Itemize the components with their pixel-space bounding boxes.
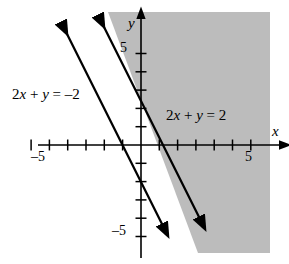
y-tick-label-5: 5 [120, 41, 127, 55]
plot-canvas [0, 0, 289, 264]
equation-right-y: y [196, 107, 203, 123]
equation-left-y: y [42, 86, 49, 102]
y-axis [136, 17, 147, 258]
inequality-graph-figure: x y –5 5 5 –5 2x + y = –2 2x + y = 2 [0, 0, 289, 264]
equation-left-rhs: –2 [65, 86, 80, 102]
equation-left-coef: 2 [12, 86, 20, 102]
equation-left-eq: = [49, 86, 65, 102]
equation-right-eq: = [203, 107, 219, 123]
equation-label-right: 2x + y = 2 [166, 108, 226, 123]
equation-left-plus: + [26, 86, 42, 102]
equation-right-coef: 2 [166, 107, 174, 123]
equation-right-rhs: 2 [219, 107, 227, 123]
y-tick-label-neg5: –5 [112, 224, 126, 238]
x-axis-label: x [272, 124, 279, 139]
y-axis-label: y [128, 16, 135, 31]
equation-right-plus: + [180, 107, 196, 123]
x-tick-label-5: 5 [245, 150, 252, 164]
x-tick-label-neg5: –5 [31, 150, 45, 164]
equation-label-left: 2x + y = –2 [12, 87, 80, 102]
shaded-region [108, 12, 270, 253]
